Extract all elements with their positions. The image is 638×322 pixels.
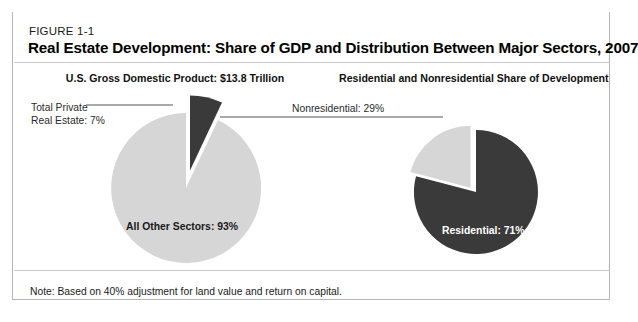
header-divider [14,62,610,63]
slice-total-private-real-estate [190,95,222,170]
figure-note: Note: Based on 40% adjustment for land v… [30,286,342,297]
pie-chart-gdp [86,95,261,263]
chart-title-development: Residential and Nonresidential Share of … [339,72,599,84]
slice-label-residential: Residential: 71% [442,225,525,236]
figure-frame: FIGURE 1-1 Real Estate Development: Shar… [12,12,610,300]
figure-title: Real Estate Development: Share of GDP an… [28,39,638,56]
callout-nonresidential: Nonresidential: 29% [292,102,384,115]
figure-number: FIGURE 1-1 [29,25,94,37]
callout-line-1: Total Private [31,101,105,114]
note-divider [14,270,610,271]
callout-total-private-real-estate: Total Private Real Estate: 7% [31,101,105,127]
callout-line-2: Real Estate: 7% [31,114,105,127]
slice-label-all-other-sectors: All Other Sectors: 93% [126,221,238,232]
slice-all-other-sectors [111,113,261,263]
callout-line-1: Nonresidential: 29% [292,102,384,115]
slice-nonresidential [411,126,471,188]
chart-title-gdp: U.S. Gross Domestic Product: $13.8 Trill… [65,72,285,84]
